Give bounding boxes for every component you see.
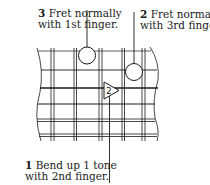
annotation-2-line2: with 3rd finger. (140, 20, 210, 31)
annotation-3: 3 Fret normally with 1st finger. (38, 8, 122, 30)
annotation-2: 2 Fret normally with 3rd finger. (140, 9, 210, 31)
bend-marker-label: 2 (106, 86, 112, 96)
annotation-1-line2: with 2nd finger. (25, 171, 117, 182)
annotation-1: 1 Bend up 1 tone with 2nd finger. (25, 160, 117, 182)
annotation-3-line2: with 1st finger. (38, 19, 122, 30)
fretboard-left-edge (37, 48, 42, 141)
fretboard-right-edge (150, 47, 158, 141)
finger-marker-3-circle (79, 47, 96, 64)
finger-marker-2-circle (126, 64, 143, 81)
fretboard (37, 47, 159, 141)
